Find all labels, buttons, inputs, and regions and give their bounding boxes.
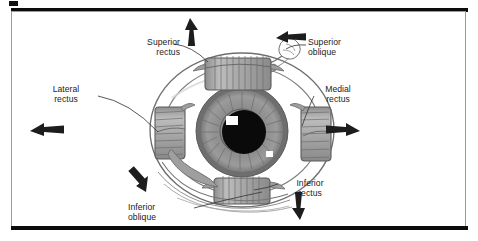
label-inferior-oblique-line2: oblique	[128, 212, 194, 222]
label-lateral-rectus-line2: rectus	[34, 94, 98, 104]
label-inferior-rectus-line2: rectus	[278, 188, 342, 198]
leader-lateral-rectus	[98, 96, 158, 132]
iris-group	[196, 85, 288, 177]
label-medial-rectus: Medial rectus	[306, 84, 370, 104]
label-medial-rectus-line1: Medial	[306, 84, 370, 94]
label-inferior-rectus-line1: Inferior	[278, 178, 342, 188]
inferior-oblique-arrow	[128, 166, 148, 192]
label-superior-oblique-line1: Superior	[308, 37, 388, 47]
label-lateral-rectus: Lateral rectus	[34, 84, 98, 104]
frame-rule-bottom	[11, 226, 468, 230]
label-superior-rectus-line1: Superior	[108, 37, 180, 47]
label-superior-rectus: Superior rectus	[108, 37, 180, 57]
diagram-canvas: Superior rectus Superior oblique Lateral…	[12, 12, 465, 226]
label-inferior-oblique: Inferior oblique	[128, 202, 194, 222]
pupil-highlight-secondary	[266, 151, 273, 157]
label-lateral-rectus-line1: Lateral	[34, 84, 98, 94]
label-superior-oblique-line2: oblique	[308, 47, 388, 57]
label-superior-oblique: Superior oblique	[308, 37, 388, 57]
superior-rectus-muscle	[193, 56, 284, 92]
label-inferior-rectus: Inferior rectus	[278, 178, 342, 198]
pupil-highlight-primary	[226, 116, 238, 125]
lateral-rectus-arrow	[30, 123, 64, 136]
label-medial-rectus-line2: rectus	[306, 94, 370, 104]
superior-rectus-arrow	[185, 18, 198, 46]
eye-muscles-illustration	[12, 12, 465, 226]
label-inferior-oblique-line1: Inferior	[128, 202, 194, 212]
page-crop-mark	[9, 1, 18, 6]
superior-oblique-trochlea	[279, 39, 300, 60]
figure-root: Superior rectus Superior oblique Lateral…	[0, 0, 478, 241]
label-superior-rectus-line2: rectus	[108, 47, 180, 57]
